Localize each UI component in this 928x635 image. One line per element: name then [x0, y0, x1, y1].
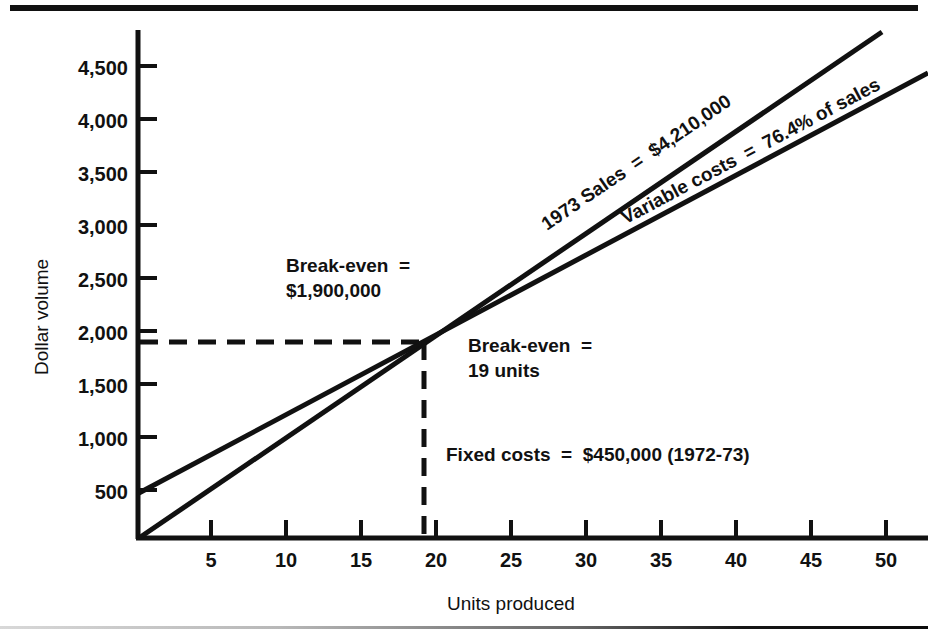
- x-tick-label-30: 30: [564, 548, 608, 572]
- y-tick-label-2000: 2,000: [42, 321, 128, 345]
- x-tick-label-5: 5: [189, 548, 233, 572]
- breakeven-dollars-annotation-line1: Break-even =: [286, 254, 410, 277]
- fixed-costs-annotation: Fixed costs = $450,000 (1972-73): [446, 443, 750, 466]
- breakeven-units-annotation-line2: 19 units: [468, 359, 540, 382]
- x-tick-label-20: 20: [414, 548, 458, 572]
- x-axis-title: Units produced: [447, 592, 575, 615]
- breakeven-units-annotation-line1: Break-even =: [468, 334, 592, 357]
- x-tick-label-25: 25: [489, 548, 533, 572]
- y-tick-label-4500: 4,500: [42, 56, 128, 80]
- x-tick-label-50: 50: [864, 548, 908, 572]
- y-tick-label-3500: 3,500: [42, 162, 128, 186]
- x-axis-ticks: [211, 520, 886, 538]
- y-tick-label-2500: 2,500: [42, 268, 128, 292]
- breakeven-chart-figure: 4,500 4,000 3,500 3,000 2,500 2,000 1,50…: [0, 0, 928, 635]
- x-tick-label-10: 10: [264, 548, 308, 572]
- y-tick-label-1500: 1,500: [42, 374, 128, 398]
- x-tick-label-35: 35: [639, 548, 683, 572]
- y-axis-ticks: [138, 66, 157, 490]
- x-tick-label-40: 40: [714, 548, 758, 572]
- y-tick-label-1000: 1,000: [42, 427, 128, 451]
- plot-canvas: [0, 0, 928, 635]
- x-tick-label-15: 15: [339, 548, 383, 572]
- x-tick-label-45: 45: [789, 548, 833, 572]
- y-axis-title: Dollar volume: [30, 259, 53, 375]
- y-tick-label-500: 500: [42, 480, 128, 504]
- y-tick-label-3000: 3,000: [42, 215, 128, 239]
- breakeven-dollars-annotation-line2: $1,900,000: [286, 279, 381, 302]
- y-tick-label-4000: 4,000: [42, 109, 128, 133]
- series-line-variable-costs: [139, 73, 928, 493]
